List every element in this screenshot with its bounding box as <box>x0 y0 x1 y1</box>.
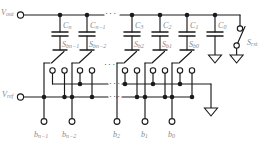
bit-b0-terminal <box>169 119 175 125</box>
vout-terminal <box>17 12 23 18</box>
node-cap-n1 <box>85 13 90 18</box>
cap-label-2: C2 <box>163 22 171 30</box>
node-cap-3 <box>130 13 135 18</box>
bit-n2-terminal <box>69 119 75 125</box>
switch-label-bn-2: Sbn−2 <box>89 41 106 49</box>
switch-arm-n2 <box>79 52 92 64</box>
switch-label-b1: Sb1 <box>162 41 172 49</box>
node-bit-b0 <box>170 95 175 100</box>
contact-n2-left <box>77 68 82 73</box>
reset-switch-label: Srst <box>247 39 257 47</box>
contact-n2-right <box>89 68 94 73</box>
node-cap-0 <box>213 13 218 18</box>
node-bit-b1 <box>143 95 148 100</box>
ellipsis-gnd-bus: ··· <box>109 79 121 88</box>
vref-terminal <box>17 94 23 100</box>
contact-b0-right <box>189 68 194 73</box>
bit-n1-terminal <box>41 119 47 125</box>
bit-label-n-minus-2: bn−2 <box>62 131 76 139</box>
contact-b1-right <box>162 68 167 73</box>
switch-label-b2: Sb2 <box>134 41 144 49</box>
contact-n1-right <box>62 68 67 73</box>
contact-b0-left <box>177 68 182 73</box>
node-cap-n <box>58 13 63 18</box>
contact-n1-left <box>50 68 55 73</box>
ellipsis-vref-bus: ··· <box>109 92 121 101</box>
bit-b1-terminal <box>142 119 148 125</box>
reset-switch-upper-contact <box>237 26 242 31</box>
cap-label-n: Cn <box>63 22 71 30</box>
node-cap-2 <box>158 13 163 18</box>
switch-arm-b2 <box>124 52 137 64</box>
bit-label-2: b2 <box>113 131 120 139</box>
cap-label-3: C3 <box>135 22 143 30</box>
vout-label: Vout <box>1 9 14 17</box>
vref-label: Vref <box>2 91 13 99</box>
switch-arm-b1 <box>152 52 165 64</box>
node-bit-n2 <box>70 95 75 100</box>
contact-b2-left <box>122 68 127 73</box>
circuit-schematic-figure: Vout Vref Cn Cn−1 C3 C2 C1 C0 Sbn−1 Sbn−… <box>0 0 275 149</box>
cap-label-n-minus-1: Cn−1 <box>90 22 106 30</box>
ellipsis-top-rail: ··· <box>105 9 117 18</box>
bus-ground-symbol <box>205 108 218 116</box>
switch-label-bn-1: Sbn−1 <box>62 41 79 49</box>
node-bit-n1 <box>42 95 47 100</box>
cap-label-1: C1 <box>190 22 198 30</box>
switch-arm-b0 <box>179 52 192 64</box>
reset-switch-lower-contact <box>234 43 239 48</box>
ellipsis-switch-row: ··· <box>104 60 116 69</box>
reset-ground-symbol <box>230 55 243 63</box>
switch-label-b0: Sb0 <box>189 41 199 49</box>
contact-b1-left <box>150 68 155 73</box>
bit-label-1: b1 <box>141 131 148 139</box>
cap-label-0: C0 <box>218 22 226 30</box>
wires <box>17 12 245 125</box>
bit-b2-terminal <box>114 119 120 125</box>
switch-arm-n1 <box>52 52 65 64</box>
node-cap-1 <box>185 13 190 18</box>
bit-label-n-minus-1: bn−1 <box>34 131 48 139</box>
contact-b2-right <box>134 68 139 73</box>
c0-ground-symbol <box>209 55 222 63</box>
bit-label-0: b0 <box>168 131 175 139</box>
